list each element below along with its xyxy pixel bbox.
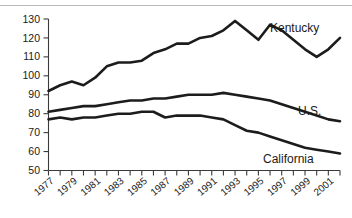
y-tick-label: 80	[28, 107, 40, 119]
x-axis-tick-labels: 1977197919811983198519871989199119931995…	[32, 175, 336, 198]
data-series-group	[49, 21, 341, 154]
x-tick-label: 1985	[125, 175, 149, 198]
series-label-california: California	[263, 152, 314, 166]
x-tick-label: 1987	[148, 175, 172, 198]
chart-canvas: 5060708090100110120130 19771979198119831…	[0, 0, 352, 218]
x-tick-label: 1997	[265, 175, 289, 198]
x-tick-label: 2001	[312, 175, 336, 198]
y-axis: 5060708090100110120130	[22, 13, 48, 177]
series-label-us: U.S.	[298, 104, 321, 118]
series-line-california	[49, 112, 341, 154]
y-tick-label: 120	[22, 32, 40, 44]
y-tick-label: 130	[22, 13, 40, 25]
x-tick-label: 1995	[242, 175, 266, 198]
y-axis-tick-labels: 5060708090100110120130	[22, 13, 40, 177]
x-tick-label: 1979	[55, 175, 79, 198]
x-axis: 1977197919811983198519871989199119931995…	[32, 171, 340, 198]
x-tick-label: 1989	[172, 175, 196, 198]
x-tick-label: 1977	[32, 175, 56, 198]
x-tick-label: 1981	[78, 175, 102, 198]
x-tick-label: 1999	[288, 175, 312, 198]
y-tick-label: 110	[23, 50, 40, 62]
y-tick-label: 70	[28, 126, 40, 138]
y-tick-label: 50	[28, 164, 40, 176]
y-tick-label: 90	[28, 88, 40, 100]
x-tick-label: 1983	[102, 175, 126, 198]
y-tick-label: 60	[28, 145, 40, 157]
x-tick-label: 1993	[218, 175, 242, 198]
x-axis-ticks	[49, 171, 341, 176]
line-chart: 5060708090100110120130 19771979198119831…	[0, 0, 352, 218]
x-tick-label: 1991	[195, 175, 219, 198]
series-label-kentucky: Kentucky	[270, 21, 319, 35]
y-tick-label: 100	[22, 69, 40, 81]
y-axis-ticks	[44, 19, 49, 171]
